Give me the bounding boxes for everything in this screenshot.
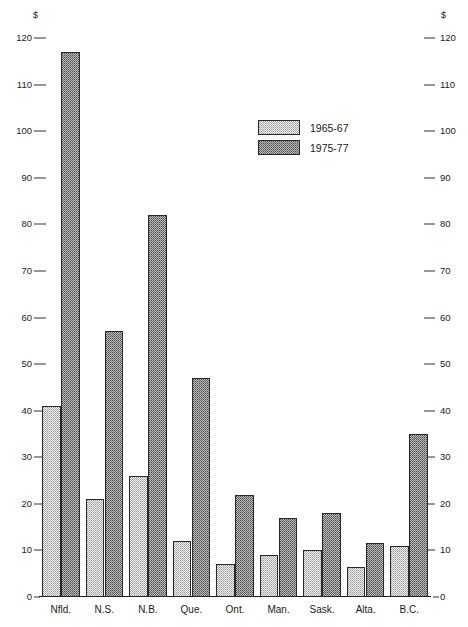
category-label-nb: N.B. <box>138 604 157 615</box>
y-tick-label-left: 110 <box>8 80 32 90</box>
y-tick-label-left: 80 <box>8 220 32 230</box>
bar-nb-1975-77 <box>148 215 167 597</box>
bar-man-1965-67 <box>260 555 279 597</box>
bar-alta-1975-77 <box>366 543 385 597</box>
y-tick-label-right: 100 <box>440 126 464 136</box>
y-tick-mark-right <box>433 597 439 598</box>
bar-nfld-1965-67 <box>42 406 61 597</box>
plot-area <box>39 38 431 597</box>
category-label-que: Que. <box>181 604 203 615</box>
y-tick-label-right: 40 <box>440 406 464 416</box>
bar-alta-1965-67 <box>347 567 366 597</box>
y-tick-label-right: 60 <box>440 313 464 323</box>
left-axis-unit-label: $ <box>33 10 38 20</box>
bar-ont-1965-67 <box>216 564 235 597</box>
bar-bc-1975-77 <box>409 434 428 597</box>
y-tick-label-left: 120 <box>8 33 32 43</box>
y-tick-label-right: 20 <box>440 499 464 509</box>
category-label-ont: Ont. <box>226 604 245 615</box>
bar-nb-1965-67 <box>129 476 148 597</box>
y-tick-label-left: 90 <box>8 173 32 183</box>
bar-que-1975-77 <box>192 378 211 597</box>
y-tick-label-right: 120 <box>440 33 464 43</box>
bar-ns-1965-67 <box>86 499 105 597</box>
category-label-ns: N.S. <box>95 604 114 615</box>
bar-bc-1965-67 <box>390 546 409 597</box>
category-label-sask: Sask. <box>310 604 335 615</box>
category-label-nfld: Nfld. <box>50 604 71 615</box>
category-label-alta: Alta. <box>356 604 376 615</box>
y-tick-label-right: 30 <box>440 453 464 463</box>
category-label-bc: B.C. <box>399 604 418 615</box>
bar-ont-1975-77 <box>235 495 254 597</box>
y-tick-label-left: 10 <box>8 546 32 556</box>
category-label-man: Man. <box>267 604 289 615</box>
y-tick-label-right: 10 <box>440 546 464 556</box>
right-axis-unit-label: $ <box>441 10 446 20</box>
y-tick-label-left: 30 <box>8 453 32 463</box>
y-tick-label-left: 20 <box>8 499 32 509</box>
bar-man-1975-77 <box>279 518 298 597</box>
y-tick-label-right: 50 <box>440 359 464 369</box>
y-tick-label-left: 60 <box>8 313 32 323</box>
y-tick-label-left: 0 <box>8 592 32 602</box>
bar-ns-1975-77 <box>105 331 124 597</box>
bar-nfld-1975-77 <box>61 52 80 597</box>
bar-sask-1975-77 <box>322 513 341 597</box>
y-tick-label-right: 110 <box>440 80 464 90</box>
y-tick-label-right: 0 <box>440 592 464 602</box>
y-tick-label-right: 70 <box>440 266 464 276</box>
y-tick-label-right: 80 <box>440 220 464 230</box>
y-tick-label-right: 90 <box>440 173 464 183</box>
y-tick-label-left: 70 <box>8 266 32 276</box>
y-tick-label-left: 50 <box>8 359 32 369</box>
y-tick-label-left: 40 <box>8 406 32 416</box>
bar-sask-1965-67 <box>303 550 322 597</box>
bar-chart: $ $ 1201101009080706050403020100 1201101… <box>0 0 468 627</box>
bar-que-1965-67 <box>173 541 192 597</box>
y-tick-label-left: 100 <box>8 126 32 136</box>
